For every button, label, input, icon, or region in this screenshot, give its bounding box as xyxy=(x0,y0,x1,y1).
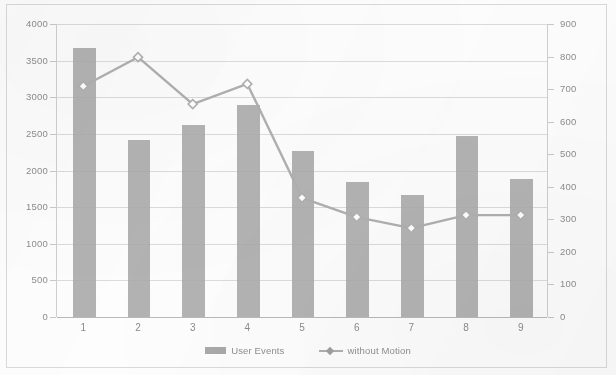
right-axis-tick-label: 300 xyxy=(560,213,576,224)
gridline xyxy=(57,317,547,318)
category-label: 8 xyxy=(439,322,493,333)
left-axis-tick-label: 0 xyxy=(4,311,48,322)
chart-figure: 05001000150020002500300035004000 0100200… xyxy=(0,0,616,375)
left-axis-tick-label: 4000 xyxy=(4,18,48,29)
right-axis-tick-label: 400 xyxy=(560,181,576,192)
left-axis-tick-label: 3500 xyxy=(4,55,48,66)
left-axis-tick-label: 1500 xyxy=(4,201,48,212)
line-diamond-swatch-icon xyxy=(319,347,343,355)
category-label: 1 xyxy=(56,322,110,333)
right-axis-tick-label: 900 xyxy=(560,18,576,29)
right-axis-tick xyxy=(548,187,554,188)
line-marker-diamond xyxy=(243,79,252,88)
right-axis-tick xyxy=(548,122,554,123)
legend-label-user-events: User Events xyxy=(231,345,284,356)
category-label: 5 xyxy=(275,322,329,333)
right-axis-tick xyxy=(548,284,554,285)
right-axis-tick-label: 100 xyxy=(560,278,576,289)
right-axis-tick-label: 600 xyxy=(560,116,576,127)
legend-label-without-motion: without Motion xyxy=(348,345,411,356)
legend-item-user-events: User Events xyxy=(205,345,284,356)
legend-item-without-motion: without Motion xyxy=(319,345,411,356)
right-axis-tick xyxy=(548,219,554,220)
left-axis-tick-label: 3000 xyxy=(4,91,48,102)
left-axis-tick-label: 2000 xyxy=(4,165,48,176)
right-axis-tick xyxy=(548,57,554,58)
line-marker-diamond xyxy=(79,82,88,91)
line-marker-diamond xyxy=(407,224,416,233)
right-axis-tick-label: 700 xyxy=(560,83,576,94)
category-label: 6 xyxy=(330,322,384,333)
category-label: 7 xyxy=(384,322,438,333)
left-axis-tick-label: 1000 xyxy=(4,238,48,249)
category-label: 3 xyxy=(166,322,220,333)
right-axis-tick xyxy=(548,252,554,253)
chart-legend: User Events without Motion xyxy=(0,345,616,356)
right-axis-tick xyxy=(548,154,554,155)
left-axis-tick-label: 2500 xyxy=(4,128,48,139)
line-marker-diamond xyxy=(516,211,525,220)
category-label: 9 xyxy=(494,322,548,333)
line-marker-diamond xyxy=(352,213,361,222)
left-axis-tick-label: 500 xyxy=(4,274,48,285)
right-axis-tick xyxy=(548,317,554,318)
category-label: 2 xyxy=(111,322,165,333)
line-series-without-motion xyxy=(56,24,548,317)
right-axis-tick xyxy=(548,24,554,25)
right-axis-tick-label: 0 xyxy=(560,311,565,322)
left-axis-tick xyxy=(50,317,56,318)
line-marker-diamond xyxy=(461,211,470,220)
line-marker-diamond xyxy=(297,193,306,202)
right-axis-tick-label: 500 xyxy=(560,148,576,159)
right-axis-tick-label: 200 xyxy=(560,246,576,257)
bar-swatch-icon xyxy=(205,347,226,354)
right-axis-tick xyxy=(548,89,554,90)
category-label: 4 xyxy=(220,322,274,333)
right-axis-tick-label: 800 xyxy=(560,51,576,62)
